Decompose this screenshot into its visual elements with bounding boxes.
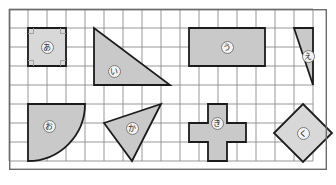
shape-label-shape-i: い [108, 65, 121, 78]
shape-label-shape-ku: く [297, 127, 310, 140]
geometry-figure: あいうえおかきく [0, 0, 336, 185]
shape-label-shape-ka: か [126, 122, 139, 135]
shape-label-shape-ki: き [211, 117, 224, 130]
shape-label-shape-u: う [221, 41, 234, 54]
shape-label-shape-a: あ [41, 41, 54, 54]
shape-label-shape-o: お [43, 120, 56, 133]
grid-area: あいうえおかきく [9, 9, 327, 170]
shape-label-shape-e: え [302, 50, 315, 63]
grid-border [9, 9, 327, 170]
